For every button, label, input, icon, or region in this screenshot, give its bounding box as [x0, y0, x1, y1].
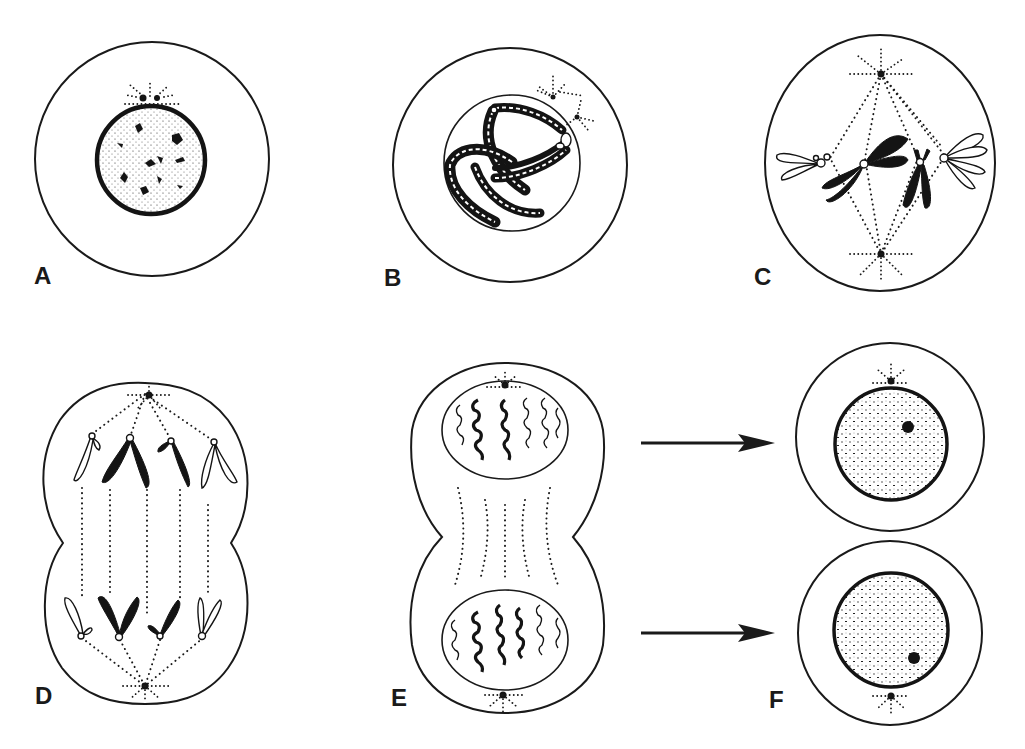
panel-label-d: D — [35, 684, 52, 708]
cell-c-metaphase — [765, 35, 995, 291]
panel-label-c: C — [754, 265, 771, 289]
chromosomes-upper — [74, 433, 237, 488]
cell-membrane — [43, 383, 247, 704]
nucleolus — [908, 652, 920, 664]
cell-a-interphase — [35, 42, 269, 276]
nucleus-lower — [442, 590, 568, 690]
centrosomes — [123, 384, 170, 700]
spindle-remnant — [455, 488, 558, 585]
centrosome — [873, 364, 909, 385]
centrosome — [873, 693, 909, 714]
nucleolus — [902, 421, 914, 433]
panel-label-b: B — [384, 266, 401, 290]
arrow-upper — [641, 434, 775, 452]
cell-f-daughter-lower — [798, 541, 982, 725]
arrow-lower — [641, 624, 775, 642]
cell-e-telophase — [410, 363, 604, 713]
cell-f-daughter-upper — [796, 343, 984, 531]
cell-b-prophase — [393, 48, 627, 282]
chromosomes-lower — [65, 597, 222, 641]
nucleus — [834, 573, 948, 687]
nucleus-upper — [442, 381, 568, 479]
panel-label-e: E — [391, 686, 407, 710]
panel-label-a: A — [34, 264, 51, 288]
chromosomes — [777, 134, 987, 208]
mitosis-diagram: A B C D E F — [0, 0, 1025, 749]
cell-d-anaphase — [43, 383, 247, 704]
nucleus — [835, 388, 947, 500]
panel-label-f: F — [769, 688, 784, 712]
centrosome — [125, 80, 180, 104]
chromosomes — [450, 107, 571, 222]
spindle-fibers — [82, 394, 215, 686]
diagram-canvas — [0, 0, 1025, 749]
